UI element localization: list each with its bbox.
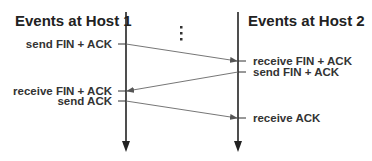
message-fin-ack-host2-to-host1 bbox=[127, 72, 238, 91]
host1-title: Events at Host 1 bbox=[15, 12, 132, 29]
message-ack-host1-to-host2 bbox=[126, 101, 237, 118]
host1-event-send-ack: send ACK bbox=[57, 95, 112, 107]
host2-timeline-arrowhead-icon bbox=[234, 141, 242, 152]
ellipsis-icon bbox=[180, 26, 183, 41]
host1-timeline bbox=[122, 12, 130, 152]
host2-timeline bbox=[234, 12, 242, 152]
host1-event-send-fin-ack: send FIN + ACK bbox=[26, 38, 112, 50]
host2-event-send-fin-ack: send FIN + ACK bbox=[253, 66, 339, 78]
host1-timeline-arrowhead-icon bbox=[122, 141, 130, 152]
host2-title: Events at Host 2 bbox=[248, 12, 365, 29]
message-fin-ack-host1-to-host2 bbox=[126, 44, 237, 61]
host2-event-receive-ack: receive ACK bbox=[253, 112, 320, 124]
